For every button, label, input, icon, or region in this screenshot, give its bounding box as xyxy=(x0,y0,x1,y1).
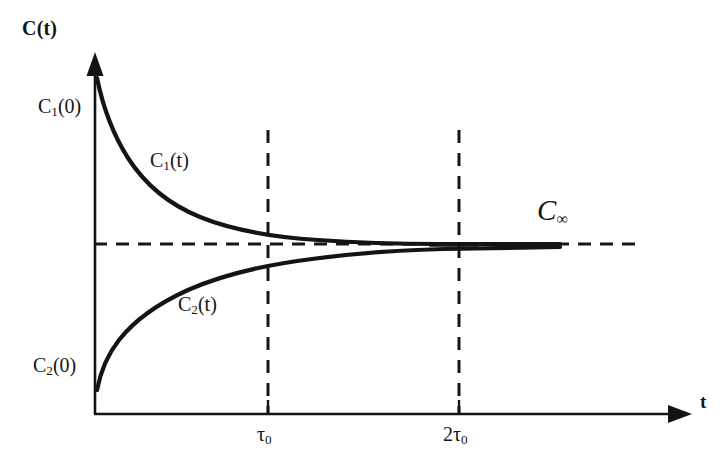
label-c1-curve: C1(t) xyxy=(150,150,189,170)
x-axis-arrowhead-icon xyxy=(668,405,692,423)
label-c-infinity-base: C xyxy=(537,194,556,226)
x-tick-label-tau0: τ0 xyxy=(257,424,272,444)
label-c-infinity-asymptote: C∞ xyxy=(537,196,568,225)
curve-c2 xyxy=(97,247,560,390)
label-c1-curve-base: C xyxy=(150,149,163,171)
label-c2-initial-tail: (0) xyxy=(53,354,76,376)
label-c2-initial-value: C2(0) xyxy=(33,355,76,375)
y-axis-title: C(t) xyxy=(22,18,57,38)
infinity-icon: ∞ xyxy=(557,210,568,227)
plot-area xyxy=(0,0,725,470)
label-c1-initial-base: C xyxy=(38,95,51,117)
x-tick-label-2tau0-subscript: 0 xyxy=(461,432,468,447)
label-c1-initial-tail: (0) xyxy=(58,95,81,117)
label-c2-curve: C2(t) xyxy=(178,294,217,314)
label-c1-initial-value: C1(0) xyxy=(38,96,81,116)
label-c1-curve-subscript: 1 xyxy=(163,158,170,173)
label-c2-initial-base: C xyxy=(33,354,46,376)
label-c2-curve-tail: (t) xyxy=(198,293,217,315)
label-c2-curve-base: C xyxy=(178,293,191,315)
x-tick-label-tau0-base: τ xyxy=(257,423,265,445)
x-tick-label-tau0-subscript: 0 xyxy=(265,432,272,447)
x-tick-label-2tau0-base: 2τ xyxy=(443,423,461,445)
figure-canvas: C(t) t C1(0) C1(t) C2(t) C2(0) C∞ τ0 2τ0 xyxy=(0,0,725,470)
y-axis-arrowhead-icon xyxy=(87,52,104,76)
x-axis-title: t xyxy=(700,392,706,411)
label-c1-curve-tail: (t) xyxy=(170,149,189,171)
x-tick-label-2tau0: 2τ0 xyxy=(443,424,468,444)
label-c2-curve-subscript: 2 xyxy=(191,302,198,317)
label-c1-initial-subscript: 1 xyxy=(51,104,58,119)
label-c2-initial-subscript: 2 xyxy=(46,363,53,378)
